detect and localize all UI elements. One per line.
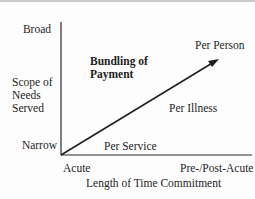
- x-axis-left-label: Acute: [63, 162, 90, 175]
- heading-line: Payment: [90, 68, 148, 81]
- point-label-per-service: Per Service: [104, 140, 157, 153]
- y-axis-top-label: Broad: [14, 23, 51, 36]
- y-axis-title-line: Served: [12, 102, 53, 115]
- y-axis-bottom-label: Narrow: [8, 139, 57, 152]
- heading-line: Bundling of: [90, 55, 148, 68]
- x-axis-right-label: Pre-/Post-Acute: [180, 162, 253, 175]
- diagram-heading: Bundling of Payment: [90, 55, 148, 81]
- arrowhead-icon: [208, 59, 219, 67]
- y-axis-title-line: Scope of: [12, 76, 53, 89]
- point-label-per-person: Per Person: [195, 39, 245, 52]
- x-axis-title: Length of Time Commitment: [86, 177, 221, 190]
- y-axis-title-line: Needs: [12, 89, 53, 102]
- y-axis-title: Scope of Needs Served: [12, 76, 53, 115]
- point-label-per-illness: Per Illness: [169, 102, 217, 115]
